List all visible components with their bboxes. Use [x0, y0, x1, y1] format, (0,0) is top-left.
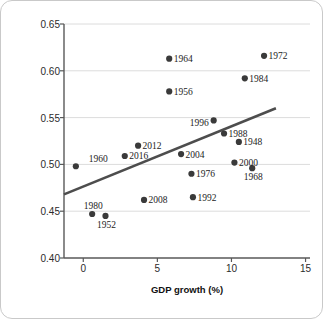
data-point-label: 1972: [269, 51, 288, 61]
data-point-label: 2004: [186, 150, 205, 160]
data-point: [102, 213, 108, 219]
x-tick-label: 5: [155, 263, 161, 274]
data-point: [221, 130, 227, 136]
x-axis-label: GDP growth (%): [64, 284, 310, 295]
data-point: [166, 88, 172, 94]
data-point: [178, 151, 184, 157]
data-point: [141, 197, 147, 203]
data-point-label: 1996: [190, 118, 209, 128]
data-point-label: 1956: [174, 87, 193, 97]
data-point-label: 2012: [143, 141, 162, 151]
data-point-label: 1960: [89, 154, 108, 164]
data-point-label: 2008: [149, 195, 168, 205]
x-tick-label: 10: [226, 263, 237, 274]
data-point-label: 1976: [196, 169, 215, 179]
data-point: [190, 194, 196, 200]
data-point: [166, 56, 172, 62]
data-point: [261, 53, 267, 59]
data-point: [122, 153, 128, 159]
scatter-plot-svg: 1948195219561960196419681972197619801984…: [64, 24, 310, 258]
data-point: [188, 171, 194, 177]
data-point-label: 1968: [244, 172, 263, 182]
chart-figure: 1948195219561960196419681972197619801984…: [0, 0, 323, 319]
x-tick-label: 0: [80, 263, 86, 274]
data-point: [89, 211, 95, 217]
data-point: [211, 117, 217, 123]
data-point-label: 1988: [229, 129, 248, 139]
y-tick-label: 0.50: [41, 159, 60, 170]
y-tick-label: 0.55: [41, 112, 60, 123]
data-point-label: 1984: [249, 74, 268, 84]
x-tick-label: 15: [300, 263, 311, 274]
data-point: [231, 159, 237, 165]
data-point-label: 2016: [129, 151, 148, 161]
data-point-label: 1952: [97, 220, 116, 230]
y-tick-label: 0.40: [41, 253, 60, 264]
data-point: [236, 139, 242, 145]
data-points-group: 1948195219561960196419681972197619801984…: [73, 51, 288, 230]
data-point: [73, 163, 79, 169]
data-point-label: 1964: [174, 54, 193, 64]
data-point: [135, 143, 141, 149]
y-tick-label: 0.60: [41, 65, 60, 76]
data-point-label: 2000: [239, 158, 258, 168]
data-point-label: 1992: [197, 193, 216, 203]
data-point-label: 1980: [84, 201, 103, 211]
plot-area: 1948195219561960196419681972197619801984…: [64, 24, 310, 258]
y-tick-label: 0.65: [41, 19, 60, 30]
data-point: [242, 75, 248, 81]
y-tick-label: 0.45: [41, 206, 60, 217]
